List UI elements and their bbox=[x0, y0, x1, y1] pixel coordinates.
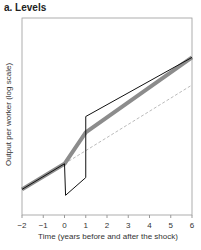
svg-text:3: 3 bbox=[126, 221, 131, 230]
svg-text:−1: −1 bbox=[39, 221, 49, 230]
svg-text:6: 6 bbox=[190, 221, 195, 230]
chart-plot: −2−10123456 bbox=[0, 0, 201, 250]
svg-text:−2: −2 bbox=[17, 221, 27, 230]
svg-text:1: 1 bbox=[84, 221, 89, 230]
smoothed-line bbox=[22, 57, 192, 189]
svg-text:2: 2 bbox=[105, 221, 110, 230]
trend-line bbox=[65, 85, 193, 164]
svg-text:0: 0 bbox=[62, 221, 67, 230]
svg-text:4: 4 bbox=[147, 221, 152, 230]
x-ticks: −2−10123456 bbox=[17, 215, 194, 230]
svg-text:5: 5 bbox=[169, 221, 174, 230]
